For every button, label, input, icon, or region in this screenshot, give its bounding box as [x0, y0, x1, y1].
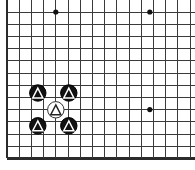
hoshi-right-middle-icon [147, 107, 152, 112]
hoshi-top-left-icon [53, 9, 58, 14]
go-board-diagram [0, 0, 195, 170]
goban-canvas [0, 0, 195, 170]
black-stone-lower-left [30, 118, 46, 134]
white-stone-center [48, 102, 64, 118]
black-stone-lower-right [61, 118, 77, 134]
black-stone-upper-right [61, 85, 77, 101]
black-stone-upper-left [30, 85, 46, 101]
hoshi-top-right-icon [147, 9, 152, 14]
